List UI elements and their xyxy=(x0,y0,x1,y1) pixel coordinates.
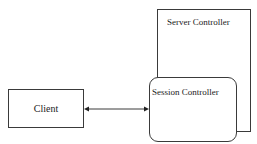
server-controller-label: Server Controller xyxy=(167,17,230,27)
arrowhead-left-icon xyxy=(84,107,89,112)
client-node: Client xyxy=(8,89,84,128)
session-controller-label: Session Controller xyxy=(152,87,219,97)
session-controller-node: Session Controller xyxy=(149,77,237,142)
client-label: Client xyxy=(9,104,83,114)
